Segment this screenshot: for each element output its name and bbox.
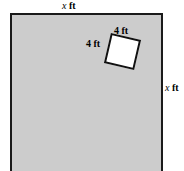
top-side-unit: ft	[69, 0, 76, 11]
right-side-unit: ft	[172, 82, 179, 93]
inner-square-top-label: 4 ft	[114, 26, 128, 36]
right-side-variable: x	[165, 82, 169, 93]
geometry-figure: x ft x ft 4 ft 4 ft	[0, 0, 184, 171]
top-side-variable: x	[62, 0, 66, 11]
inner-square-left-label: 4 ft	[86, 39, 100, 49]
right-side-length-label: x ft	[165, 83, 179, 93]
outer-square-region	[10, 13, 163, 171]
top-side-length-label: x ft	[62, 1, 76, 11]
